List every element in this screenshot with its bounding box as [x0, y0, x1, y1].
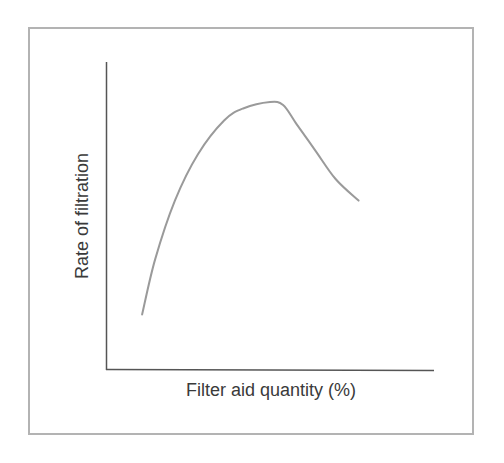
- axes: [106, 62, 434, 371]
- x-axis-label: Filter aid quantity (%): [106, 380, 436, 401]
- rate-curve: [142, 102, 359, 315]
- y-axis-label: Rate of filtration: [72, 153, 93, 279]
- x-axis: [106, 370, 434, 371]
